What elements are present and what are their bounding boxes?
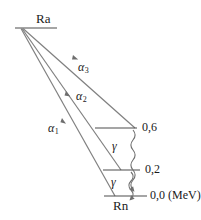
alpha-3-subscript: 3 — [85, 66, 89, 75]
alpha-2-subscript: 2 — [83, 95, 87, 104]
alpha-3-arrowhead — [72, 55, 78, 60]
energy-label-0-0: 0,0 (MeV) — [150, 189, 201, 201]
alpha-1-symbol: α — [48, 121, 54, 135]
alpha-3-symbol: α — [78, 60, 84, 74]
alpha-2-label: α2 — [76, 90, 86, 102]
alpha-3-label: α3 — [78, 61, 88, 73]
alpha-3-line — [23, 29, 135, 129]
gamma-lower-label: γ — [111, 176, 116, 188]
ground-energy-value: 0,0 — [150, 188, 165, 202]
decay-scheme-canvas — [0, 0, 201, 220]
alpha-1-arrowhead — [60, 118, 66, 124]
energy-label-0-2: 0,2 — [145, 163, 160, 175]
energy-label-0-6: 0,6 — [142, 121, 157, 133]
alpha-1-subscript: 1 — [55, 127, 59, 136]
decay-scheme-diagram: Ra Rn α3 α2 α1 γ γ 0,6 0,2 0,0 (MeV) — [0, 0, 201, 220]
alpha-2-line — [22, 29, 121, 171]
alpha-2-symbol: α — [76, 89, 82, 103]
daughter-nuclide-label: Rn — [113, 199, 128, 212]
alpha-2-arrowhead — [65, 91, 71, 97]
alpha-1-line — [21, 29, 115, 197]
energy-unit-label: (MeV) — [168, 188, 201, 202]
gamma-upper-label: γ — [112, 140, 117, 152]
alpha-1-label: α1 — [48, 122, 58, 134]
parent-nuclide-label: Ra — [36, 12, 50, 25]
